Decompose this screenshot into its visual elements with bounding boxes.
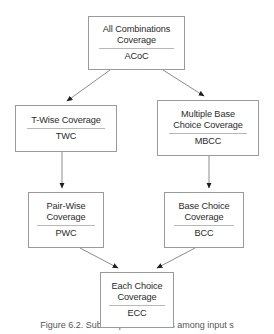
node-title: Each Choice Coverage [110,281,165,304]
node-divider [99,48,173,49]
figure-container: All Combinations Coverage ACoC T-Wise Co… [0,0,274,334]
node-divider [37,225,95,226]
node-divider [27,128,105,129]
node-base-choice-coverage[interactable]: Base Choice Coverage BCC [164,192,244,248]
node-acronym: PWC [55,228,76,240]
node-divider [174,225,235,226]
node-multiple-base-choice-coverage[interactable]: Multiple Base Choice Coverage MBCC [157,100,259,156]
node-acronym: BCC [194,228,213,240]
node-t-wise-coverage[interactable]: T-Wise Coverage TWC [15,105,117,152]
node-each-choice-coverage[interactable]: Each Choice Coverage ECC [100,272,174,328]
node-title: Pair-Wise Coverage [44,201,87,224]
node-acronym: TWC [56,131,77,143]
edge-acoc-to-mbcc [163,70,204,96]
node-divider [109,305,165,306]
node-title: Multiple Base Choice Coverage [171,109,245,132]
node-pair-wise-coverage[interactable]: Pair-Wise Coverage PWC [28,192,104,248]
node-acronym: MBCC [195,136,222,148]
edge-pwc-to-ecc [80,248,118,268]
node-title: Base Choice Coverage [177,201,232,224]
edge-acoc-to-twc [67,70,110,101]
edge-bcc-to-ecc [157,248,195,268]
node-all-combinations-coverage[interactable]: All Combinations Coverage ACoC [88,16,185,70]
node-acronym: ECC [127,308,146,320]
node-title: All Combinations Coverage [101,24,172,47]
node-divider [169,133,247,134]
node-title: T-Wise Coverage [29,115,102,127]
node-acronym: ACoC [124,51,148,63]
